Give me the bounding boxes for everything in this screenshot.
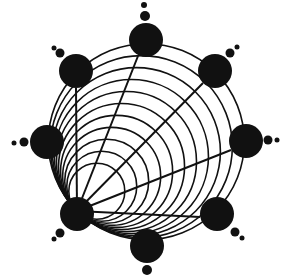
node-circles	[12, 2, 280, 275]
node-circle-left	[30, 125, 64, 159]
satellite-dot-bottom-1	[142, 265, 152, 275]
node-circle-top	[129, 23, 163, 57]
satellite-dot-right-2	[275, 138, 280, 143]
satellite-dot-lower-right-2	[240, 236, 245, 241]
node-circle-upper-right	[198, 54, 232, 88]
node-circle-bottom	[130, 229, 164, 263]
satellite-dot-upper-left-1	[56, 49, 65, 58]
satellite-dot-lower-left-2	[52, 237, 57, 242]
satellite-dot-lower-left-1	[56, 229, 65, 238]
node-left	[12, 125, 65, 159]
satellite-dot-upper-right-1	[226, 49, 235, 58]
spoke-to-upper-left	[76, 88, 77, 211]
node-circle-lower-right	[200, 197, 234, 231]
satellite-dot-top-1	[140, 11, 150, 21]
node-circle-right	[229, 124, 263, 158]
circle-node-diagram	[0, 0, 292, 278]
satellite-dot-lower-right-1	[231, 228, 240, 237]
node-circle-upper-left	[59, 54, 93, 88]
node-upper-left	[52, 46, 94, 89]
satellite-dot-upper-right-2	[235, 45, 240, 50]
spoke-to-upper-right	[77, 83, 203, 211]
node-bottom	[130, 229, 164, 275]
node-circle-lower-left	[60, 197, 94, 231]
node-lower-left	[52, 197, 95, 242]
satellite-dot-right-1	[264, 136, 273, 145]
satellite-dot-left-1	[20, 138, 29, 147]
node-right	[229, 124, 280, 158]
node-top	[129, 2, 163, 57]
satellite-dot-top-2	[141, 2, 147, 8]
node-lower-right	[200, 197, 245, 241]
satellite-dot-left-2	[12, 141, 17, 146]
diagram-canvas	[0, 0, 292, 278]
node-upper-right	[198, 45, 240, 89]
satellite-dot-upper-left-2	[52, 46, 57, 51]
